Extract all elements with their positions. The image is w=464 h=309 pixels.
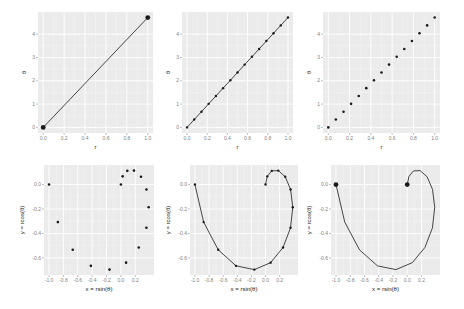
y-tick-label: 2: [317, 77, 320, 83]
data-point: [388, 63, 391, 66]
data-point: [373, 79, 376, 82]
panel-top-middle: 0.00.20.40.60.81.001234rθ: [165, 12, 293, 150]
data-point: [433, 16, 436, 19]
x-tick-label: 0.0: [262, 277, 269, 283]
x-tick-label: -0.8: [346, 277, 355, 283]
y-tick-label: -0.6: [178, 255, 187, 261]
data-point: [350, 103, 353, 106]
y-tick-label: 2: [32, 77, 35, 83]
x-tick-label: 0.2: [132, 277, 139, 283]
x-axis-title: r: [95, 144, 97, 150]
data-point: [243, 63, 245, 65]
data-point: [145, 15, 150, 20]
y-tick-label: -0.4: [32, 230, 41, 236]
data-point: [186, 126, 188, 128]
x-tick-label: 1.0: [431, 135, 438, 141]
data-point: [236, 71, 238, 73]
data-point: [342, 110, 345, 113]
data-point: [265, 40, 267, 42]
y-tick-label: 1: [317, 101, 320, 107]
data-point: [280, 24, 282, 26]
x-tick-label: 0.2: [276, 277, 283, 283]
y-tick-label: 2: [176, 77, 179, 83]
data-point: [264, 183, 266, 185]
y-axis-title: θ: [21, 70, 27, 74]
data-point: [277, 169, 279, 171]
x-tick-label: 0.4: [224, 135, 231, 141]
x-tick-label: -0.8: [59, 277, 68, 283]
x-tick-label: 0.0: [117, 277, 124, 283]
y-tick-label: -0.4: [319, 230, 328, 236]
data-point: [335, 118, 338, 121]
x-tick-label: 0.0: [404, 277, 411, 283]
y-tick-label: -0.2: [178, 206, 187, 212]
y-axis-title: y = rcos(θ): [165, 206, 171, 235]
x-tick-label: -0.4: [374, 277, 383, 283]
data-point: [271, 170, 273, 172]
data-point: [145, 188, 148, 191]
y-tick-label: 4: [317, 31, 320, 37]
data-point: [194, 183, 196, 185]
x-tick-label: -1.0: [332, 277, 341, 283]
x-tick-label: 0.4: [367, 135, 374, 141]
endpoint-marker: [405, 182, 410, 187]
y-tick-label: 1: [176, 101, 179, 107]
x-tick-label: 0.2: [346, 135, 353, 141]
x-axis-title: r: [381, 144, 383, 150]
x-tick-label: 0.2: [204, 135, 211, 141]
data-point: [200, 111, 202, 113]
faceted-plot: 0.00.20.40.60.81.001234rθ0.00.20.40.60.8…: [0, 0, 464, 309]
x-axis-title: x = rsin(θ): [86, 286, 113, 292]
x-tick-label: -0.8: [205, 277, 214, 283]
x-tick-label: 0.8: [123, 135, 130, 141]
x-tick-label: 0.2: [418, 277, 425, 283]
data-point: [289, 227, 291, 229]
y-tick-label: 0: [176, 124, 179, 130]
data-point: [380, 71, 383, 74]
data-point: [41, 125, 46, 130]
data-point: [235, 265, 237, 267]
y-tick-label: 0.0: [34, 181, 41, 187]
x-tick-label: 0.0: [325, 135, 332, 141]
x-tick-label: 0.0: [40, 135, 47, 141]
x-tick-label: -0.2: [389, 277, 398, 283]
data-point: [411, 40, 414, 43]
y-axis-title: y = rcos(θ): [306, 206, 312, 235]
data-point: [282, 246, 284, 248]
endpoint-marker: [334, 182, 339, 187]
x-tick-label: 1.0: [284, 135, 291, 141]
data-point: [222, 87, 224, 89]
figure: 0.00.20.40.60.81.001234rθ0.00.20.40.60.8…: [0, 0, 464, 309]
y-tick-label: -0.6: [32, 255, 41, 261]
data-point: [57, 221, 60, 224]
y-tick-label: -0.6: [319, 255, 328, 261]
data-point: [253, 268, 255, 270]
data-point: [48, 183, 51, 186]
data-point: [207, 103, 209, 105]
y-tick-label: 0.0: [321, 181, 328, 187]
data-point: [284, 176, 286, 178]
data-point: [229, 79, 231, 81]
x-tick-label: -0.6: [360, 277, 369, 283]
x-tick-label: -1.0: [191, 277, 200, 283]
panel-bottom-left: -1.0-0.8-0.6-0.4-0.20.00.20.0-0.2-0.4-0.…: [19, 165, 154, 292]
data-point: [327, 126, 330, 129]
y-axis-title: y = rcos(θ): [19, 206, 25, 235]
panel-top-right: 0.00.20.40.60.81.001234rθ: [306, 12, 440, 150]
data-point: [120, 183, 123, 186]
data-point: [71, 249, 74, 252]
data-point: [137, 246, 140, 249]
data-point: [125, 261, 128, 264]
x-tick-label: 0.6: [102, 135, 109, 141]
data-point: [418, 32, 421, 35]
y-tick-label: 3: [317, 54, 320, 60]
data-point: [287, 16, 289, 18]
y-tick-label: 4: [32, 31, 35, 37]
y-tick-label: 0.0: [180, 181, 187, 187]
x-axis-title: r: [237, 144, 239, 150]
y-tick-label: -0.2: [32, 206, 41, 212]
y-tick-label: 3: [32, 54, 35, 60]
y-tick-label: 0: [317, 124, 320, 130]
x-tick-label: 0.8: [410, 135, 417, 141]
x-axis-title: x = rsin(θ): [372, 286, 399, 292]
